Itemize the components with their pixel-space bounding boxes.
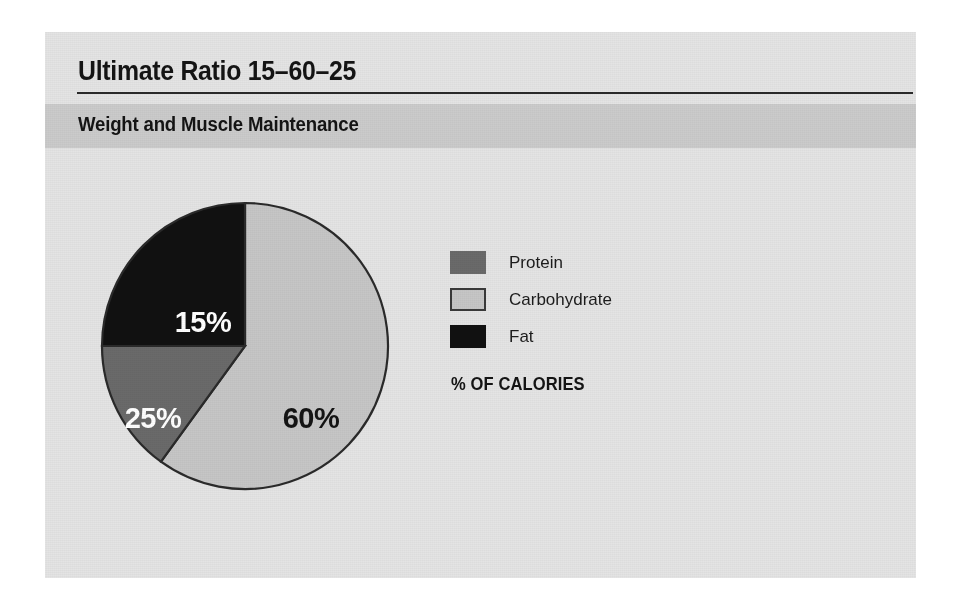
legend-item-fat: Fat: [450, 318, 750, 355]
title-underline-divider: [77, 92, 913, 94]
legend-swatch-carbohydrate: [450, 288, 486, 311]
pie-label-protein: 25%: [125, 402, 182, 434]
legend-label-fat: Fat: [509, 327, 534, 347]
chart-subtitle: Weight and Muscle Maintenance: [78, 113, 359, 136]
legend-swatch-fat: [450, 325, 486, 348]
legend-item-protein: Protein: [450, 244, 750, 281]
legend-caption: % OF CALORIES: [451, 374, 726, 395]
legend-item-carbohydrate: Carbohydrate: [450, 281, 750, 318]
pie-label-fat: 15%: [175, 306, 232, 338]
pie-label-carbohydrate: 60%: [283, 402, 340, 434]
legend-swatch-protein: [450, 251, 486, 274]
page-title: Ultimate Ratio 15–60–25: [78, 56, 356, 87]
pie-chart: 60% 25% 15%: [99, 200, 391, 492]
legend-label-protein: Protein: [509, 253, 563, 273]
chart-legend: Protein Carbohydrate Fat % OF CALORIES: [450, 244, 750, 395]
legend-label-carbohydrate: Carbohydrate: [509, 290, 612, 310]
chart-card: Ultimate Ratio 15–60–25 Weight and Muscl…: [45, 32, 916, 578]
